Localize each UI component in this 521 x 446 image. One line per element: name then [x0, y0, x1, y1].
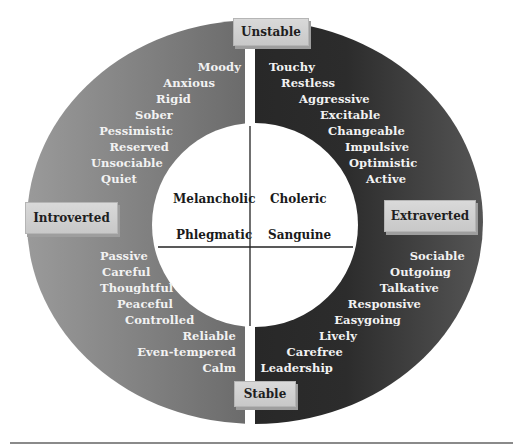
- trait-item: Sociable: [410, 250, 465, 263]
- trait-item: Aggressive: [299, 93, 370, 106]
- personality-wheel-diagram: Unstable Stable Introverted Extraverted …: [0, 0, 521, 446]
- trait-item: Restless: [281, 77, 335, 90]
- trait-item: Sober: [135, 109, 173, 122]
- trait-item: Controlled: [125, 314, 194, 327]
- trait-item: Touchy: [269, 61, 315, 74]
- axis-label-extraverted: Extraverted: [384, 200, 476, 232]
- axis-label-unstable: Unstable: [233, 18, 309, 46]
- trait-item: Optimistic: [349, 157, 417, 170]
- trait-item: Unsociable: [91, 157, 163, 170]
- trait-item: Quiet: [101, 173, 137, 186]
- trait-item: Reserved: [109, 141, 169, 154]
- trait-item: Talkative: [380, 282, 439, 295]
- trait-item: Even-tempered: [137, 346, 236, 359]
- trait-item: Moody: [198, 61, 241, 74]
- quadrant-phlegmatic: Phlegmatic: [176, 228, 252, 242]
- trait-item: Excitable: [320, 109, 380, 122]
- trait-item: Outgoing: [390, 266, 451, 279]
- trait-item: Rigid: [156, 93, 191, 106]
- axis-label-introverted: Introverted: [25, 202, 118, 234]
- trait-item: Peaceful: [117, 298, 173, 311]
- axis-label-stable: Stable: [234, 381, 296, 407]
- quadrant-melancholic: Melancholic: [173, 192, 255, 206]
- trait-item: Reliable: [182, 330, 236, 343]
- trait-item: Calm: [202, 362, 236, 375]
- inner-circle: [152, 123, 358, 327]
- quadrant-sanguine: Sanguine: [268, 228, 331, 242]
- trait-item: Anxious: [163, 77, 215, 90]
- trait-item: Active: [366, 173, 406, 186]
- quadrant-choleric: Choleric: [270, 192, 327, 206]
- trait-item: Carefree: [287, 346, 343, 359]
- trait-item: Pessimistic: [99, 125, 173, 138]
- trait-item: Easygoing: [334, 314, 401, 327]
- trait-item: Lively: [319, 330, 357, 343]
- trait-item: Leadership: [260, 362, 333, 375]
- trait-item: Changeable: [328, 125, 405, 138]
- trait-item: Passive: [100, 250, 148, 263]
- trait-item: Impulsive: [345, 141, 409, 154]
- trait-item: Responsive: [348, 298, 421, 311]
- trait-item: Thoughtful: [100, 282, 173, 295]
- bottom-divider: [10, 442, 513, 444]
- trait-item: Careful: [102, 266, 150, 279]
